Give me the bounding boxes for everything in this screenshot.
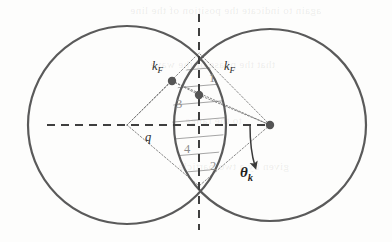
hatch-line (150, 99, 245, 107)
region-label-1: 1 (209, 71, 215, 85)
point-center-k (195, 91, 203, 99)
hatch-line (150, 133, 245, 141)
theta-k-arrow (250, 125, 255, 166)
hatch-line (150, 167, 245, 175)
lens-hatching (150, 65, 245, 192)
diagram-canvas: kF kF q θk 1 3 4 2 (0, 0, 392, 242)
chord-left-to-point-k (127, 81, 172, 125)
point-left-k (168, 77, 176, 85)
label-kf-left: kF (152, 59, 164, 75)
region-label-4: 4 (184, 142, 191, 156)
label-theta-k: θk (240, 164, 254, 183)
point-right-center (266, 121, 274, 129)
label-q: q (145, 130, 151, 144)
chord-point-k-to-centre-k (172, 81, 199, 95)
hatch-line (150, 82, 245, 90)
fermi-sphere-diagram: again to indicate the position of the li… (0, 0, 392, 242)
region-label-2: 2 (210, 159, 216, 173)
radius-right-bottom (199, 125, 270, 186)
region-label-3: 3 (176, 97, 182, 111)
radius-right-top (199, 53, 270, 125)
label-kf-right: kF (224, 59, 236, 75)
hatch-line (150, 116, 245, 124)
